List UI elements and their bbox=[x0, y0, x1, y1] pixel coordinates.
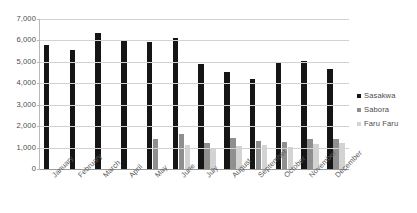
legend-label: Sabora bbox=[364, 105, 389, 114]
y-axis-tick-label: 2,000 bbox=[0, 122, 36, 130]
y-axis-tick-mark bbox=[37, 62, 40, 63]
gridline bbox=[40, 126, 349, 127]
y-axis-tick-mark bbox=[37, 19, 40, 20]
y-axis-tick-label: 4,000 bbox=[0, 79, 36, 87]
bar-group bbox=[220, 19, 246, 169]
bar-sasakwa[interactable] bbox=[173, 38, 179, 169]
bar-group bbox=[143, 19, 169, 169]
y-axis-tick-label: 6,000 bbox=[0, 36, 36, 44]
bar-sabora[interactable] bbox=[179, 134, 185, 169]
bar-sabora[interactable] bbox=[256, 141, 262, 170]
x-axis: JanuaryFebruaryMarchAprilMayJuneJulyAugu… bbox=[39, 170, 348, 213]
bar-group bbox=[66, 19, 92, 169]
y-axis-tick-label: 1,000 bbox=[0, 144, 36, 152]
bar-sabora[interactable] bbox=[230, 138, 236, 169]
bar-sabora[interactable] bbox=[153, 139, 159, 169]
plot-area bbox=[39, 19, 349, 169]
bar-groups bbox=[40, 19, 349, 169]
bar-group bbox=[272, 19, 298, 169]
bar-group bbox=[298, 19, 324, 169]
y-axis-tick-mark bbox=[37, 148, 40, 149]
gridline bbox=[40, 148, 349, 149]
gridline bbox=[40, 62, 349, 63]
legend-item[interactable]: Sasakwa bbox=[357, 90, 417, 101]
bar-group bbox=[169, 19, 195, 169]
legend-item[interactable]: Sabora bbox=[357, 104, 417, 115]
bar-group bbox=[92, 19, 118, 169]
legend-label: Sasakwa bbox=[364, 91, 396, 100]
y-axis-tick-label: 3,000 bbox=[0, 101, 36, 109]
bar-sasakwa[interactable] bbox=[224, 72, 230, 170]
legend-swatch-icon bbox=[357, 122, 361, 126]
y-axis-tick-mark bbox=[37, 40, 40, 41]
bar-group bbox=[246, 19, 272, 169]
y-axis-tick-label: 5,000 bbox=[0, 58, 36, 66]
bar-group bbox=[40, 19, 66, 169]
bar-group bbox=[323, 19, 349, 169]
bar-sasakwa[interactable] bbox=[70, 50, 76, 169]
bar-sasakwa[interactable] bbox=[44, 45, 50, 169]
gridline bbox=[40, 19, 349, 20]
y-axis-tick-mark bbox=[37, 105, 40, 106]
legend-swatch-icon bbox=[357, 94, 361, 98]
bar-group bbox=[195, 19, 221, 169]
gridline bbox=[40, 40, 349, 41]
legend-item[interactable]: Faru Faru bbox=[357, 118, 417, 129]
y-axis: 7,0006,0005,0004,0003,0002,0001,0000 bbox=[0, 12, 36, 172]
bar-sasakwa[interactable] bbox=[95, 33, 101, 169]
y-axis-tick-mark bbox=[37, 126, 40, 127]
gridline bbox=[40, 105, 349, 106]
chart-legend: SasakwaSaboraFaru Faru bbox=[357, 90, 417, 132]
y-axis-tick-label: 0 bbox=[0, 165, 36, 173]
bar-group bbox=[117, 19, 143, 169]
bar-sasakwa[interactable] bbox=[301, 61, 307, 169]
bar-chart: 7,0006,0005,0004,0003,0002,0001,0000 Jan… bbox=[0, 0, 417, 213]
y-axis-tick-label: 7,000 bbox=[0, 15, 36, 23]
gridline bbox=[40, 83, 349, 84]
y-axis-tick-mark bbox=[37, 83, 40, 84]
legend-label: Faru Faru bbox=[364, 119, 398, 128]
bar-sasakwa[interactable] bbox=[198, 64, 204, 169]
bar-sasakwa[interactable] bbox=[250, 79, 256, 169]
bar-sabora[interactable] bbox=[307, 139, 313, 169]
legend-swatch-icon bbox=[357, 108, 361, 112]
